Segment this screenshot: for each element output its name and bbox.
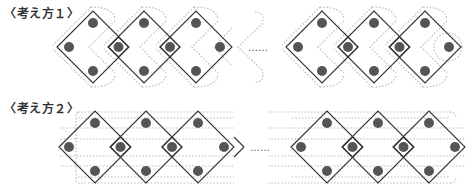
loop-guide: [53, 49, 91, 87]
dot: [424, 118, 434, 128]
dot: [64, 142, 74, 152]
dot: [317, 18, 327, 28]
loop-guide: [282, 7, 320, 45]
dot: [343, 42, 353, 52]
dot: [88, 18, 98, 28]
ellipsis: ……: [248, 42, 268, 53]
dot: [322, 118, 332, 128]
loop-guide: [156, 7, 194, 45]
dot: [348, 142, 358, 152]
dot: [369, 18, 379, 28]
dot: [322, 166, 332, 176]
dot: [64, 42, 74, 52]
dot: [90, 166, 100, 176]
dot: [139, 18, 149, 28]
loop-guide: [53, 7, 91, 45]
dot: [141, 166, 151, 176]
ellipsis: ……: [250, 142, 270, 153]
dot: [296, 142, 306, 152]
row-cap: [450, 112, 456, 118]
dot: [215, 42, 225, 52]
dot: [193, 166, 203, 176]
dot: [373, 166, 383, 176]
dot: [193, 118, 203, 128]
row-cap: [450, 177, 456, 183]
dot: [444, 42, 454, 52]
dot: [317, 66, 327, 76]
dot: [139, 66, 149, 76]
dot: [293, 42, 303, 52]
dot: [420, 18, 430, 28]
dot: [191, 66, 201, 76]
dot: [395, 42, 405, 52]
dot: [116, 142, 126, 152]
edge-diamond-fragment: [234, 137, 244, 157]
dot: [369, 66, 379, 76]
loop-guide: [334, 7, 372, 45]
dot: [88, 66, 98, 76]
dot: [450, 142, 460, 152]
dot: [424, 166, 434, 176]
dot: [399, 142, 409, 152]
loop-guide: [282, 49, 320, 87]
row-cap: [76, 112, 78, 183]
dot: [167, 142, 177, 152]
dot: [165, 42, 175, 52]
dot: [90, 118, 100, 128]
dot: [141, 118, 151, 128]
dot: [219, 142, 229, 152]
diagram-canvas: …………: [0, 0, 472, 194]
dot: [373, 118, 383, 128]
dot: [114, 42, 124, 52]
dot: [191, 18, 201, 28]
dot: [420, 66, 430, 76]
